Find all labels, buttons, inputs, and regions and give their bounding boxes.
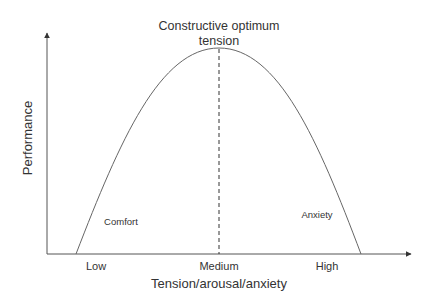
y-axis-label: Performance: [20, 101, 35, 175]
x-tick-medium: Medium: [199, 260, 238, 272]
x-axis-label: Tension/arousal/anxiety: [151, 276, 287, 291]
chart-title-line1: Constructive optimum: [159, 19, 280, 33]
performance-diagram: Constructive optimum tension Performance…: [0, 0, 434, 303]
x-tick-low: Low: [86, 260, 106, 272]
anxiety-label: Anxiety: [301, 209, 332, 220]
chart-title-line2: tension: [199, 34, 239, 48]
x-tick-high: High: [316, 260, 339, 272]
comfort-label: Comfort: [104, 216, 138, 227]
